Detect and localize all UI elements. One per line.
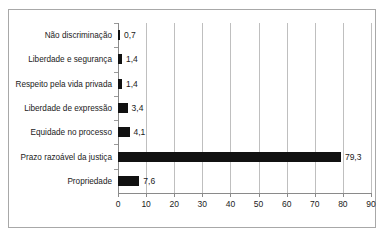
x-tick-label-50: 50 [244, 199, 274, 209]
x-tick-label-20: 20 [159, 199, 189, 209]
category-label: Liberdade de expressão [9, 103, 112, 112]
bar-value-label: 1,4 [126, 54, 138, 64]
x-tick-60 [287, 193, 288, 197]
x-tick-label-10: 10 [131, 199, 161, 209]
y-tick [114, 23, 118, 24]
x-tick-label-80: 80 [328, 199, 358, 209]
x-tick-10 [146, 193, 147, 197]
x-tick-label-40: 40 [215, 199, 245, 209]
x-tick-50 [259, 193, 260, 197]
x-tick-label-70: 70 [300, 199, 330, 209]
x-tick-30 [202, 193, 203, 197]
y-tick [114, 169, 118, 170]
bar-row: Liberdade e segurança1,4 [9, 47, 375, 71]
x-tick-80 [343, 193, 344, 197]
bar [118, 54, 122, 64]
bar-row: Liberdade de expressão3,4 [9, 96, 375, 120]
x-tick-90 [371, 193, 372, 197]
bar [118, 176, 139, 186]
x-tick-label-60: 60 [272, 199, 302, 209]
bar-row: Prazo razoável da justiça79,3 [9, 144, 375, 168]
x-tick-20 [174, 193, 175, 197]
y-tick [114, 144, 118, 145]
bar-row: Equidade no processo4,1 [9, 120, 375, 144]
bar-value-label: 0,7 [124, 30, 136, 40]
bar [118, 127, 130, 137]
category-label: Prazo razoável da justiça [9, 152, 112, 161]
x-tick-label-90: 90 [356, 199, 386, 209]
category-label: Não discriminação [9, 31, 112, 40]
x-tick-0 [118, 193, 119, 197]
y-tick [114, 72, 118, 73]
bar-value-label: 4,1 [134, 127, 146, 137]
bar-value-label: 7,6 [143, 176, 155, 186]
y-tick [114, 120, 118, 121]
bar [118, 103, 128, 113]
bar-row: Não discriminação0,7 [9, 23, 375, 47]
category-label: Equidade no processo [9, 128, 112, 137]
bar-value-label: 1,4 [126, 79, 138, 89]
bar-value-label: 79,3 [345, 152, 362, 162]
x-tick-label-0: 0 [103, 199, 133, 209]
x-tick-label-30: 30 [187, 199, 217, 209]
bar [118, 30, 120, 40]
y-tick [114, 47, 118, 48]
bar [118, 79, 122, 89]
category-label: Liberdade e segurança [9, 55, 112, 64]
chart-figure-frame: 0102030405060708090Não discriminação0,7L… [8, 9, 376, 228]
clipped-header-text [0, 0, 386, 4]
category-label: Respeito pela vida privada [9, 79, 112, 88]
x-axis-line [118, 193, 371, 194]
x-tick-70 [315, 193, 316, 197]
y-tick [114, 96, 118, 97]
bar-row: Respeito pela vida privada1,4 [9, 72, 375, 96]
bar-row: Propriedade7,6 [9, 169, 375, 193]
bar [118, 152, 341, 162]
x-tick-40 [230, 193, 231, 197]
category-label: Propriedade [9, 176, 112, 185]
bar-value-label: 3,4 [132, 103, 144, 113]
